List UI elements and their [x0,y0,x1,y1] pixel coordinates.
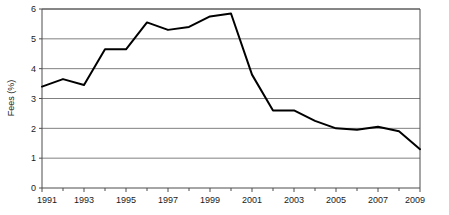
x-tick-label: 1995 [116,195,136,205]
y-tick-label: 0 [31,183,36,193]
x-tick-label: 1993 [74,195,94,205]
y-tick-label: 1 [31,153,36,163]
y-tick-label: 5 [31,34,36,44]
y-tick-label: 2 [31,124,36,134]
x-tick-label: 1999 [200,195,220,205]
y-tick-label: 6 [31,4,36,14]
y-axis-title: Fees (%) [6,80,16,117]
line-chart: 0123456 19911993199519971999200120032005… [0,0,449,215]
x-tick-label: 2007 [368,195,388,205]
x-tick-label: 2001 [242,195,262,205]
y-tick-label: 4 [31,64,36,74]
x-tick-label: 2009 [405,195,425,205]
chart-canvas: 0123456 19911993199519971999200120032005… [0,0,449,215]
y-tick-label: 3 [31,94,36,104]
x-tick-label: 2003 [284,195,304,205]
x-tick-label: 2005 [326,195,346,205]
x-tick-label: 1997 [158,195,178,205]
chart-background [0,0,449,215]
x-tick-label: 1991 [37,195,57,205]
